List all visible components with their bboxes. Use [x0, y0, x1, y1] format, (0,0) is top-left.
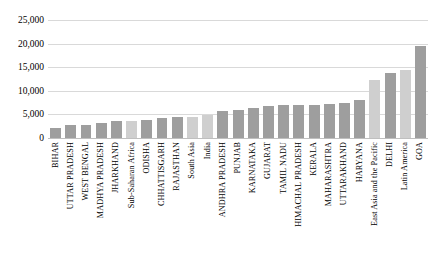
- bar-slot: [382, 20, 397, 138]
- x-tick-slot: HARYANA: [352, 140, 367, 268]
- bar-series: [48, 20, 428, 138]
- x-tick-label: GOA: [416, 142, 424, 160]
- bar: [172, 117, 183, 138]
- x-tick-label: MAHARASHTRA: [325, 142, 333, 206]
- x-tick-label: BIHAR: [51, 142, 59, 168]
- x-tick-slot: KERALA: [306, 140, 321, 268]
- x-tick-slot: GUJARAT: [261, 140, 276, 268]
- bar-slot: [322, 20, 337, 138]
- y-tick-label: 5,000: [0, 109, 44, 119]
- bar-slot: [246, 20, 261, 138]
- x-tick-slot: WEST BENGAL: [78, 140, 93, 268]
- bar-slot: [367, 20, 382, 138]
- x-tick-slot: HIMACHAL PRADESH: [291, 140, 306, 268]
- bar-slot: [306, 20, 321, 138]
- y-tick-label: 20,000: [0, 39, 44, 49]
- x-tick-label: PUNJAB: [234, 142, 242, 174]
- x-tick-slot: CHHATTISGARH: [154, 140, 169, 268]
- bar-slot: [139, 20, 154, 138]
- x-axis: BIHARUTTAR PRADESHWEST BENGALMADHYA PRAD…: [48, 140, 428, 268]
- bar-slot: [94, 20, 109, 138]
- bar-slot: [124, 20, 139, 138]
- bar: [309, 105, 320, 139]
- x-tick-label: Latin America: [401, 142, 409, 190]
- x-tick-slot: ODISHA: [139, 140, 154, 268]
- bar-slot: [352, 20, 367, 138]
- bar-slot: [337, 20, 352, 138]
- x-tick-label: HARYANA: [356, 142, 364, 182]
- x-tick-label: KERALA: [310, 142, 318, 176]
- x-tick-label: WEST BENGAL: [82, 142, 90, 200]
- bar-slot: [261, 20, 276, 138]
- x-tick-label: KARNATAKA: [249, 142, 257, 193]
- x-tick-label: ODISHA: [143, 142, 151, 174]
- x-axis-baseline: [48, 138, 428, 139]
- y-tick-label: 0: [0, 133, 44, 143]
- x-tick-label: TAMIL NADU: [280, 142, 288, 194]
- bar: [415, 46, 426, 138]
- x-tick-label: HIMACHAL PRADESH: [295, 142, 303, 227]
- bar: [293, 105, 304, 138]
- bar: [65, 125, 76, 138]
- bar: [96, 123, 107, 138]
- bar: [217, 111, 228, 138]
- x-tick-label: UTTARAKHAND: [340, 142, 348, 205]
- x-tick-label: MADHYA PRADESH: [97, 142, 105, 218]
- bar: [81, 125, 92, 138]
- bar-slot: [170, 20, 185, 138]
- x-tick-label: UTTAR PRADESH: [67, 142, 75, 209]
- x-tick-slot: PUNJAB: [230, 140, 245, 268]
- bar: [369, 80, 380, 138]
- x-tick-slot: MADHYA PRADESH: [94, 140, 109, 268]
- bar-slot: [291, 20, 306, 138]
- bar: [202, 115, 213, 138]
- bar: [157, 118, 168, 138]
- bar: [141, 120, 152, 138]
- bar: [233, 110, 244, 138]
- x-tick-slot: RAJASTHAN: [170, 140, 185, 268]
- bar: [111, 121, 122, 138]
- y-tick-label: 25,000: [0, 15, 44, 25]
- bar: [278, 105, 289, 138]
- x-tick-label: Sub-Saharan Africa: [128, 142, 136, 208]
- bar: [248, 108, 259, 138]
- x-tick-slot: UTTAR PRADESH: [63, 140, 78, 268]
- x-tick-slot: TAMIL NADU: [276, 140, 291, 268]
- bar-slot: [398, 20, 413, 138]
- bar: [263, 106, 274, 138]
- bar-slot: [200, 20, 215, 138]
- x-tick-slot: UTTARAKHAND: [337, 140, 352, 268]
- bar: [400, 70, 411, 138]
- x-tick-slot: GOA: [413, 140, 428, 268]
- x-tick-slot: Latin America: [398, 140, 413, 268]
- x-tick-label: India: [204, 142, 212, 159]
- x-tick-slot: Sub-Saharan Africa: [124, 140, 139, 268]
- bar-slot: [78, 20, 93, 138]
- x-tick-slot: DELHI: [382, 140, 397, 268]
- bar-slot: [109, 20, 124, 138]
- x-tick-slot: JHARKHAND: [109, 140, 124, 268]
- y-tick-label: 15,000: [0, 62, 44, 72]
- bar-slot: [154, 20, 169, 138]
- bar-slot: [215, 20, 230, 138]
- bar-slot: [276, 20, 291, 138]
- y-axis: 05,00010,00015,00020,00025,000: [0, 0, 44, 160]
- x-tick-label: GUJARAT: [264, 142, 272, 179]
- x-tick-slot: South Asia: [185, 140, 200, 268]
- bar: [385, 73, 396, 138]
- x-tick-slot: BIHAR: [48, 140, 63, 268]
- bar-slot: [63, 20, 78, 138]
- bar: [126, 121, 137, 138]
- bar: [187, 117, 198, 138]
- bar-chart: 05,00010,00015,00020,00025,000 BIHARUTTA…: [0, 0, 432, 270]
- bar-slot: [413, 20, 428, 138]
- y-tick-label: 10,000: [0, 86, 44, 96]
- x-tick-label: RAJASTHAN: [173, 142, 181, 191]
- x-tick-slot: MAHARASHTRA: [322, 140, 337, 268]
- x-tick-slot: East Asia and the Pacific: [367, 140, 382, 268]
- bar-slot: [230, 20, 245, 138]
- bar-slot: [48, 20, 63, 138]
- x-tick-label: ANDHRA PRADESH: [219, 142, 227, 217]
- bar: [354, 100, 365, 138]
- x-tick-slot: India: [200, 140, 215, 268]
